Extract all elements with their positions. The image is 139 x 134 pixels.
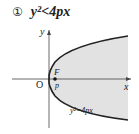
x-axis-label: x [123, 81, 129, 92]
focus-label: F [53, 67, 60, 77]
curve-equation-label: y²=4px [69, 106, 93, 115]
origin-label: O [36, 79, 43, 90]
y-axis-arrow-icon [47, 30, 51, 35]
focus-distance-label: p [54, 81, 59, 90]
y-axis-label: y [39, 26, 45, 37]
parabola-diagram: y x O F p y²=4px [0, 0, 139, 134]
